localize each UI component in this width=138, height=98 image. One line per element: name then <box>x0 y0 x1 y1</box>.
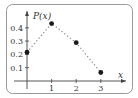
y-axis-title: P(x) <box>32 11 52 21</box>
x-tick-label: 2 <box>74 84 79 93</box>
x-axis-title: x <box>118 70 123 80</box>
chart-frame <box>7 5 133 94</box>
chart: 1230.10.20.30.4 P(x) x <box>0 0 138 98</box>
data-point <box>25 50 30 55</box>
y-tick-label: 0.1 <box>10 64 23 73</box>
y-tick-label: 0.2 <box>10 50 23 59</box>
x-tick-label: 1 <box>49 84 54 93</box>
y-tick-label: 0.3 <box>10 37 23 46</box>
y-tick-label: 0.4 <box>10 24 23 33</box>
x-tick-label: 3 <box>98 84 103 93</box>
data-point <box>49 21 54 26</box>
data-point <box>98 70 103 75</box>
data-point <box>74 40 79 45</box>
